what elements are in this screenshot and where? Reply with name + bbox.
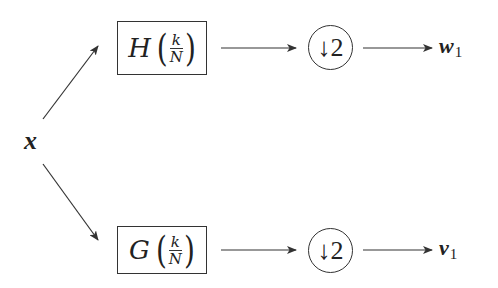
filter-function-h: H [128, 33, 151, 63]
input-label-x: x [24, 126, 37, 156]
fraction-k-over-n: k N [170, 33, 183, 64]
down-arrow-icon: ↓ [318, 236, 331, 266]
arrow-x-to-h [43, 46, 98, 119]
connector-arrows [0, 0, 498, 288]
filter-bank-diagram: x H ( k N ) ↓2 w1 G ( k N ) ↓2 v1 [0, 0, 498, 288]
down-arrow-icon: ↓ [318, 33, 331, 63]
downsampler-upper: ↓2 [308, 25, 353, 70]
filter-box-g: G ( k N ) [117, 226, 207, 274]
paren-open: ( [157, 26, 168, 71]
filter-box-h: H ( k N ) [117, 21, 207, 75]
paren-open: ( [156, 228, 167, 273]
filter-function-g: G [129, 235, 150, 265]
output-label-v1: v1 [439, 235, 457, 263]
arrow-x-to-g [43, 164, 98, 240]
paren-close: ) [184, 228, 195, 273]
downsampler-lower: ↓2 [308, 228, 353, 273]
fraction-k-over-n: k N [169, 235, 182, 266]
paren-close: ) [185, 26, 196, 71]
output-label-w1: w1 [439, 33, 462, 61]
